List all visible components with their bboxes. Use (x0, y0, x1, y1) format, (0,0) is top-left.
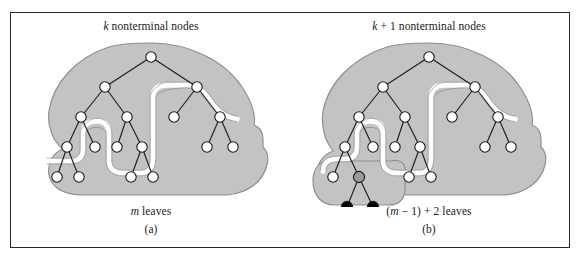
tree-node (52, 172, 62, 182)
tree-node (202, 142, 212, 152)
figure-frame: k nonterminal nodes (10, 12, 570, 248)
tree-node (122, 112, 132, 122)
tree-node (470, 82, 480, 92)
tree-node (112, 142, 122, 152)
panel-b-letter: (b) (289, 223, 569, 235)
panel-b-top-caption: k + 1 nonterminal nodes (289, 20, 569, 32)
tree-node (192, 82, 202, 92)
tree-node (328, 172, 338, 182)
tree-node (74, 172, 84, 182)
panel-b-bottom-caption: (m − 1) + 2 leaves (289, 205, 569, 217)
tree-node (426, 172, 436, 182)
panel-b-bottom-caption-symbol: m (390, 205, 398, 217)
panel-a-bottom-caption-symbol: m (131, 205, 139, 217)
tree-node (76, 112, 86, 122)
tree-node (90, 142, 100, 152)
panel-b-tree-diagram (289, 35, 569, 207)
tree-node (126, 172, 136, 182)
tree-node (340, 142, 350, 152)
tree-node (400, 112, 410, 122)
tree-node (493, 112, 503, 122)
panel-b-top-caption-text: + 1 nonterminal nodes (377, 20, 485, 32)
panel-b: k + 1 nonterminal nodes (289, 13, 569, 247)
panel-a-tree-diagram (11, 35, 291, 207)
tree-node (424, 52, 434, 62)
tree-node (447, 112, 457, 122)
panel-a-bottom-caption-text: leaves (139, 205, 171, 217)
tree-node (169, 112, 179, 122)
tree-node (378, 82, 388, 92)
panel-a-bottom-caption: m leaves (11, 205, 291, 217)
tree-node (506, 142, 516, 152)
tree-node (146, 52, 156, 62)
tree-node (228, 142, 238, 152)
tree-node (404, 172, 414, 182)
tree-node (415, 142, 425, 152)
tree-node (354, 112, 364, 122)
tree-node (100, 82, 110, 92)
panel-a: k nonterminal nodes (11, 13, 291, 247)
tree-node (390, 142, 400, 152)
panel-a-top-caption-text: nonterminal nodes (109, 20, 199, 32)
panel-a-letter: (a) (11, 223, 291, 235)
panel-a-top-caption: k nonterminal nodes (11, 20, 291, 32)
tree-node (148, 172, 158, 182)
panel-b-bottom-caption-text: − 1) + 2 leaves (399, 205, 472, 217)
tree-node (137, 142, 147, 152)
tree-node-new-nonterminal (353, 171, 364, 182)
tree-node (480, 142, 490, 152)
tree-node (62, 142, 72, 152)
tree-node (368, 142, 378, 152)
tree-node (215, 112, 225, 122)
